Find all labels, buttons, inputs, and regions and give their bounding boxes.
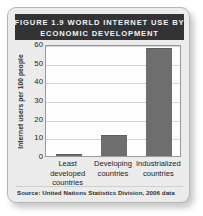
bar: [146, 48, 172, 156]
figure-title-line-1: FIGURE 1.9 WORLD INTERNET USE BY: [15, 17, 185, 28]
x-axis-tick-label: Industrializedcountries: [132, 159, 185, 178]
y-axis-tick-label: 20: [34, 116, 43, 124]
y-axis-tick-label: 10: [34, 134, 43, 142]
source-note: Source: United Nations Statistics Divisi…: [17, 189, 185, 196]
y-axis-title-label: Internet users per 100 people: [17, 54, 24, 149]
x-axis-tick-labels: LeastdevelopedcountriesDevelopingcountri…: [45, 159, 181, 193]
bar: [56, 154, 82, 156]
y-axis-tick-label: 30: [34, 97, 43, 105]
bar-series: [46, 46, 180, 156]
plot-area: [45, 45, 181, 157]
x-axis-tick-label-line: countries: [132, 169, 185, 179]
bar: [101, 135, 127, 156]
y-axis-tick-label: 60: [34, 41, 43, 49]
chart-region: Internet users per 100 people 6050403020…: [15, 42, 184, 182]
y-axis-title: Internet users per 100 people: [14, 42, 26, 160]
y-axis-tick-labels: 6050403020100: [26, 42, 44, 160]
y-axis-tick-label: 50: [34, 60, 43, 68]
figure-title-bar: FIGURE 1.9 WORLD INTERNET USE BY ECONOMI…: [15, 14, 184, 40]
y-axis-tick-label: 40: [34, 78, 43, 86]
source-divider: [16, 186, 183, 187]
figure-card: FIGURE 1.9 WORLD INTERNET USE BY ECONOMI…: [7, 7, 190, 203]
x-axis-tick-label-line: Industrialized: [132, 159, 185, 169]
figure-title-line-2: ECONOMIC DEVELOPMENT: [40, 28, 159, 39]
